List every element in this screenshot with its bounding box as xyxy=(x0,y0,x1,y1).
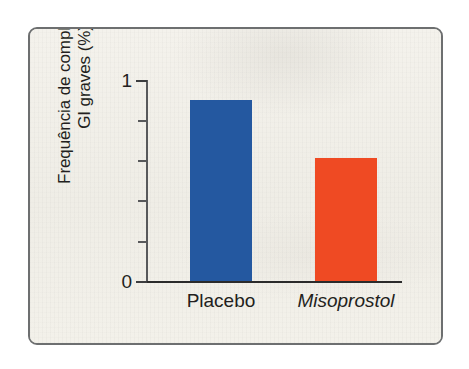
x-axis-label-placebo: Placebo xyxy=(156,291,286,310)
y-axis-tick-0_2 xyxy=(138,241,147,243)
x-axis-label-misoprostol: Misoprostol xyxy=(281,291,411,310)
y-axis-tick-label-top: 1 xyxy=(106,71,132,90)
bar-misoprostol xyxy=(315,158,377,281)
y-axis-tick-0_0 xyxy=(136,281,147,283)
y-axis-line xyxy=(146,80,148,283)
y-axis-tick-0_6 xyxy=(138,160,147,162)
bar-placebo xyxy=(190,100,252,281)
y-axis-title: Frequência de complicações GI graves (%) xyxy=(55,27,95,192)
y-axis-title-line-1: Frequência de complicações xyxy=(55,27,75,184)
y-axis-tick-0_8 xyxy=(138,120,147,122)
y-axis-title-line-2: GI graves (%) xyxy=(75,27,95,129)
figure-frame: 1 0 Placebo Misoprostol Frequência de co… xyxy=(28,27,443,345)
y-axis-tick-1_0 xyxy=(136,80,147,82)
y-axis-tick-0_4 xyxy=(138,200,147,202)
x-axis-line xyxy=(146,281,402,283)
y-axis-tick-label-bottom: 0 xyxy=(106,272,132,291)
bar-chart-plot-area: 1 0 Placebo Misoprostol Frequência de co… xyxy=(30,29,441,343)
